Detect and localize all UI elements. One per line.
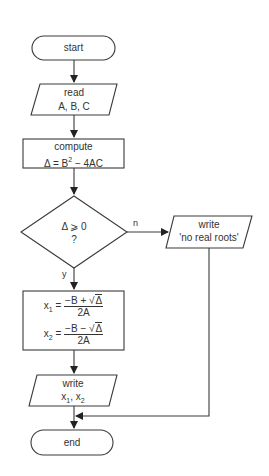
compute-label: compute Δ = B2 − 4AC bbox=[23, 140, 124, 170]
root-x2-formula: x2 = −B − √Δ 2A bbox=[23, 320, 124, 348]
x2-eq: = bbox=[55, 328, 61, 339]
x1-eq: = bbox=[55, 300, 61, 311]
x2-fraction: −B − √Δ 2A bbox=[64, 323, 103, 346]
x1-sub: 1 bbox=[49, 306, 53, 313]
x1-fraction: −B + √Δ 2A bbox=[64, 295, 103, 318]
write-roots-label: write x1, x2 bbox=[29, 377, 117, 407]
x2-numerator: −B − bbox=[65, 323, 89, 334]
x2-sub: 2 bbox=[49, 334, 53, 341]
decision-line1: Δ ⩾ 0 bbox=[44, 220, 104, 233]
edge-label-n: n bbox=[133, 218, 138, 228]
root-x1-formula: x1 = −B + √Δ 2A bbox=[23, 292, 124, 320]
roots-label: x1 = −B + √Δ 2A x2 = −B − √Δ 2A bbox=[23, 292, 124, 348]
x1-numerator: −B + bbox=[65, 295, 89, 306]
read-label: read A, B, C bbox=[31, 86, 117, 113]
read-line2: A, B, C bbox=[31, 100, 117, 113]
compute-line2: Δ = B2 − 4AC bbox=[23, 153, 124, 170]
no-roots-line1: write bbox=[166, 218, 252, 231]
start-label: start bbox=[32, 41, 115, 54]
x2-denominator: 2A bbox=[64, 335, 103, 346]
no-roots-label: write 'no real roots' bbox=[166, 218, 252, 244]
compute-delta-b: Δ = B bbox=[44, 158, 68, 169]
x2-radicand: Δ bbox=[95, 322, 103, 334]
compute-line1: compute bbox=[23, 140, 124, 153]
x1-radicand: Δ bbox=[95, 294, 103, 306]
write-x2-sub: 2 bbox=[81, 397, 85, 404]
decision-label: Δ ⩾ 0 ? bbox=[44, 220, 104, 246]
read-line1: read bbox=[31, 86, 117, 99]
write-roots-line1: write bbox=[29, 377, 117, 390]
decision-line2: ? bbox=[44, 233, 104, 246]
edge-label-y: y bbox=[62, 269, 67, 279]
x1-denominator: 2A bbox=[64, 307, 103, 318]
end-label: end bbox=[31, 436, 113, 449]
write-roots-line2: x1, x2 bbox=[29, 390, 117, 407]
compute-suffix: − 4AC bbox=[72, 158, 103, 169]
no-roots-line2: 'no real roots' bbox=[166, 231, 252, 244]
